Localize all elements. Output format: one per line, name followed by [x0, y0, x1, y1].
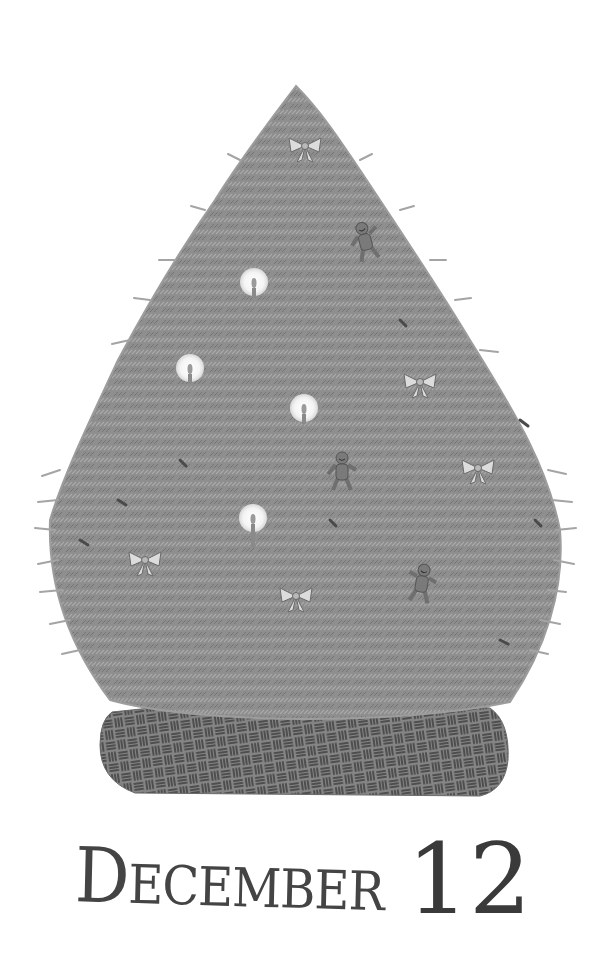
caption-day: 12	[407, 822, 532, 936]
christmas-tree-illustration	[0, 0, 606, 955]
date-caption: December 12	[0, 822, 606, 932]
caption-month: December	[74, 830, 385, 928]
